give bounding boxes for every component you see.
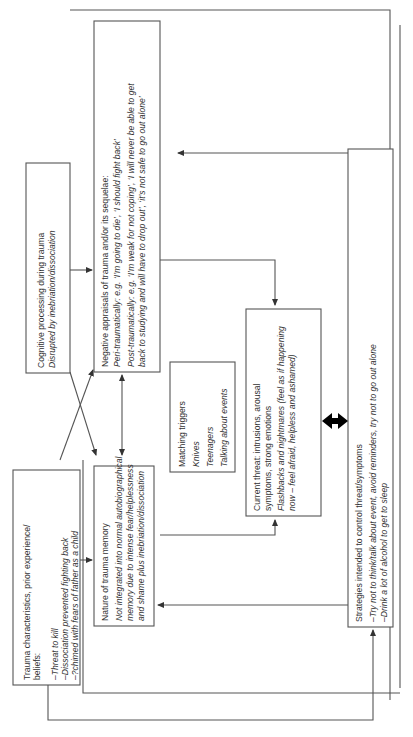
threat-line: Flashbacks and nightmares (feel as if ha… [276,326,286,511]
trigger-item: Talking about events [219,388,229,467]
memory-title: Nature of trauma memory [100,522,110,621]
cognitive-title: Cognitive processing during trauma [36,233,46,368]
threat-title-line2: symptoms, strong emotions [263,406,273,511]
threat-line: now – feel afraid, helpless and ashamed) [287,354,297,511]
appraisals-line: back to studying and will have to drop o… [137,95,147,367]
triggers-title: Matching triggers [177,401,187,467]
appraisals-line: Post-traumatically: e.g. ‘I’m weak for n… [126,83,136,367]
cognitive-to-memory-diagonal [70,372,96,455]
trauma-item: –?chimed with fears of father as a child [70,531,80,681]
cognitive-detail: Disrupted by inebriation/dissociation [47,230,57,368]
bold-bidirectional-arrow-icon [322,413,348,429]
memory-line: and shame plus inebriation/dissociation [136,471,146,621]
appraisals-to-threat-line [160,260,275,305]
trauma-to-strategies-line [48,630,373,720]
trauma-item: –Threat to kill [50,627,60,681]
trauma-to-appraisals-diagonal [60,370,93,460]
strategies-item: –Try not to think/talk about event, avoi… [368,344,378,623]
trigger-item: Teenagers [205,426,215,467]
appraisals-title: Negative appraisals of trauma and/or its… [100,175,110,367]
trigger-item: Knives [191,441,201,467]
trauma-title-line2: beliefs: [32,653,42,680]
strategies-title: Strategies intended to control threat/sy… [354,444,364,622]
cognitive-processing-text: Cognitive processing during trauma Disru… [36,230,57,368]
appraisals-line: Peri-traumatically: e.g. ‘I’m going to d… [112,138,122,367]
strategies-item: –Drink a lot of alcohol to get to sleep [379,483,389,623]
threat-title-line1: Current threat: intrusions, arousal [252,383,262,511]
trauma-title-line1: Trauma characteristics, prior experience… [22,524,32,680]
memory-to-threat-line [160,520,275,535]
cognitive-model-diagram: Trauma characteristics, prior experience… [0,0,413,737]
memory-line: Not integrated into normal autobiographi… [114,456,124,621]
memory-line: memory due to intense fear/helplessness [125,464,135,621]
trauma-item: –Dissociation prevented fighting back [60,537,70,681]
